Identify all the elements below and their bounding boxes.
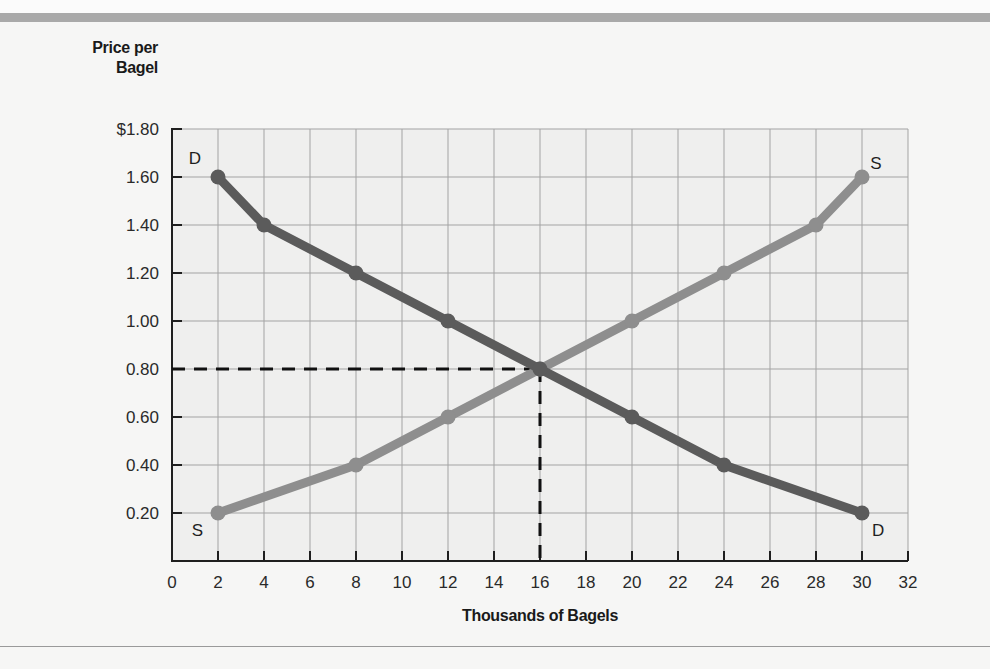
supply-point [625,314,640,329]
y-tick-label: 1.00 [126,312,159,331]
supply-curve-label: S [870,154,881,173]
y-tick-label: 0.20 [126,504,159,523]
demand-point [717,458,732,473]
demand-curve-label: D [189,149,201,168]
x-tick-label: 24 [715,573,734,592]
demand-point [855,506,870,521]
x-tick-label: 2 [213,573,222,592]
bottom-divider [0,646,990,647]
x-tick-label: 12 [439,573,458,592]
x-tick-label: 10 [393,573,412,592]
supply-point [441,410,456,425]
y-tick-label: 0.40 [126,456,159,475]
demand-point [211,170,226,185]
demand-point [625,410,640,425]
demand-point [349,266,364,281]
supply-point [809,218,824,233]
x-tick-label: 18 [577,573,596,592]
x-axis-title: Thousands of Bagels [462,607,618,625]
supply-point [855,170,870,185]
y-tick-label: 1.20 [126,264,159,283]
x-tick-label: 6 [305,573,314,592]
demand-curve-label: D [872,521,884,540]
supply-point [717,266,732,281]
x-tick-label: 8 [351,573,360,592]
supply-point [211,506,226,521]
x-tick-label: 32 [899,573,918,592]
supply-point [349,458,364,473]
x-tick-label: 26 [761,573,780,592]
demand-point [257,218,272,233]
x-tick-label: 22 [669,573,688,592]
supply-curve-label: S [192,521,203,540]
y-tick-label: 1.60 [126,168,159,187]
supply-demand-chart: 0.200.400.600.801.001.201.401.60$1.80024… [0,0,990,669]
demand-point [441,314,456,329]
x-tick-label: 30 [853,573,872,592]
y-tick-label: 0.60 [126,408,159,427]
x-tick-label: 0 [167,573,176,592]
y-tick-label: 1.40 [126,216,159,235]
demand-point [533,362,548,377]
x-tick-label: 28 [807,573,826,592]
x-tick-label: 4 [259,573,268,592]
x-tick-label: 16 [531,573,550,592]
x-tick-label: 14 [485,573,504,592]
y-tick-label: $1.80 [116,120,159,139]
x-tick-label: 20 [623,573,642,592]
y-tick-label: 0.80 [126,360,159,379]
